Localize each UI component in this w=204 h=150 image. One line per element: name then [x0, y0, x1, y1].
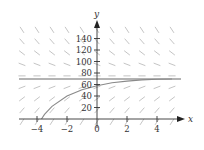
slope-segment [154, 63, 161, 66]
slope-segment [110, 39, 115, 44]
slope-segment [125, 39, 130, 44]
slope-segment [64, 51, 70, 55]
x-tick-label: −4 [31, 124, 44, 134]
slope-segment [50, 27, 54, 33]
slope-segment [155, 108, 160, 113]
x-tick-label: 4 [154, 124, 159, 134]
slope-segment [34, 86, 41, 89]
slope-segment [140, 108, 145, 113]
slope-segment [110, 108, 115, 113]
y-tick-label: 80 [81, 68, 92, 78]
x-tick-label: 2 [124, 124, 129, 134]
slope-segment [110, 27, 114, 33]
y-tick-label: 40 [81, 91, 92, 101]
slope-segment [34, 63, 41, 66]
slope-segment [154, 51, 160, 55]
slope-segment [19, 63, 26, 66]
slope-segment [65, 27, 69, 33]
slope-segment [170, 27, 174, 33]
slope-segment [140, 27, 144, 33]
slope-segment [49, 63, 56, 66]
x-tick-label: 0 [94, 124, 99, 134]
slope-segment [154, 86, 161, 89]
slope-segment [169, 97, 175, 101]
y-tick-label: 140 [76, 34, 92, 44]
slope-field-diagram: x y −4−2024 20406080100120140 [0, 0, 204, 150]
slope-segment [125, 108, 130, 113]
slope-segment [20, 119, 24, 125]
slope-segment [65, 108, 70, 113]
slope-segment [125, 27, 129, 33]
slope-segment [65, 39, 70, 44]
slope-segment [19, 97, 25, 101]
slope-segment [19, 51, 25, 55]
slope-segment [19, 86, 26, 89]
slope-segment [109, 97, 115, 101]
slope-segment [20, 27, 24, 33]
slope-segment [109, 51, 115, 55]
slope-segment [124, 86, 131, 89]
x-tick-label: −2 [61, 124, 74, 134]
slope-segment [170, 108, 175, 113]
slope-segment [170, 119, 174, 125]
slope-segment [80, 119, 84, 125]
slope-segment [64, 63, 71, 66]
y-tick-label: 60 [81, 80, 92, 90]
slope-segment [154, 97, 160, 101]
slope-segment [109, 86, 116, 89]
slope-segment [155, 39, 160, 44]
slope-segment [64, 86, 71, 89]
y-tick-label: 20 [81, 103, 92, 113]
slope-segment [139, 51, 145, 55]
slope-segment [140, 119, 144, 125]
slope-segment [20, 108, 25, 113]
slope-segment [139, 86, 146, 89]
slope-segment [35, 39, 40, 44]
slope-segment [124, 63, 131, 66]
slope-segment [50, 119, 54, 125]
slope-segment [50, 39, 55, 44]
slope-segment [49, 97, 55, 101]
slope-segment [35, 27, 39, 33]
solution-curve [42, 79, 173, 119]
slope-segment [124, 51, 130, 55]
slope-segment [155, 27, 159, 33]
slope-segment [35, 108, 40, 113]
y-axis-label: y [93, 9, 100, 19]
y-axis-arrow-icon [94, 20, 100, 28]
slope-segment [139, 63, 146, 66]
y-tick-label: 120 [76, 45, 92, 55]
slope-segment [20, 39, 25, 44]
slope-segment [110, 119, 114, 125]
slope-segment [34, 51, 40, 55]
slope-segment [109, 63, 116, 66]
slope-segment [124, 97, 130, 101]
slope-segment [169, 51, 175, 55]
slope-segment [169, 63, 176, 66]
slope-segment [49, 51, 55, 55]
slope-segment [169, 86, 176, 89]
y-tick-label: 100 [76, 57, 92, 67]
slope-segment [34, 97, 40, 101]
x-axis-arrow-icon [177, 116, 185, 122]
slope-segment [49, 86, 56, 89]
slope-segment [80, 27, 84, 33]
slope-segment [170, 39, 175, 44]
x-axis-label: x [188, 114, 193, 124]
slope-segment [140, 39, 145, 44]
slope-segment [139, 97, 145, 101]
